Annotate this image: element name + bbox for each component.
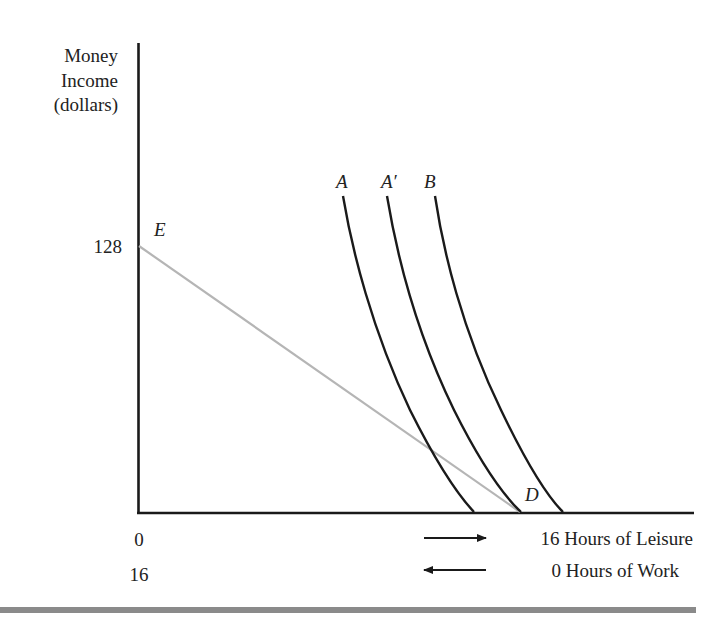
point-label-d: D [524,484,539,505]
y-axis-title-line-1: Money [64,45,118,66]
x-label-leisure: 16 Hours of Leisure [541,528,694,549]
x-tick-leisure-0: 0 [134,529,144,550]
indifference-curve-a [343,196,474,512]
indifference-curve-b [435,196,563,512]
curve-label-a: A [334,171,348,192]
y-axis-title-line-3: (dollars) [54,94,118,116]
labor-leisure-chart: Money Income (dollars) 128 A A′ B E D 0 … [0,0,724,622]
curve-label-a-prime: A′ [379,171,398,192]
y-axis-title-line-2: Income [61,70,118,91]
x-tick-work-16: 16 [130,564,149,585]
x-label-work: 0 Hours of Work [552,560,680,581]
y-tick-128: 128 [94,236,123,257]
bottom-divider [0,607,696,613]
budget-line [139,246,520,512]
point-label-e: E [153,219,166,240]
curve-label-b: B [424,171,436,192]
